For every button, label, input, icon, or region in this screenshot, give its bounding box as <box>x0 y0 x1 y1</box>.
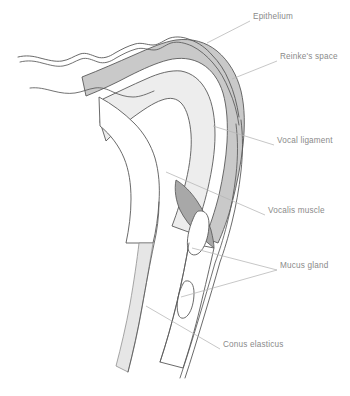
airway-notch <box>99 97 159 243</box>
label-mucus-gland: Mucus gland <box>280 262 328 270</box>
label-conus-elasticus: Conus elasticus <box>223 341 284 349</box>
label-reinkes-space: Reinke's space <box>280 53 338 61</box>
leader-reinkes-space <box>232 61 277 79</box>
label-vocalis-muscle: Vocalis muscle <box>268 207 325 215</box>
conus-elasticus-shape <box>116 243 153 372</box>
label-vocal-ligament: Vocal ligament <box>277 137 333 145</box>
leader-epithelium <box>207 21 250 43</box>
label-epithelium: Epithelium <box>253 13 293 21</box>
anatomy-figure: Epithelium Reinke's space Vocal ligament… <box>0 0 350 396</box>
